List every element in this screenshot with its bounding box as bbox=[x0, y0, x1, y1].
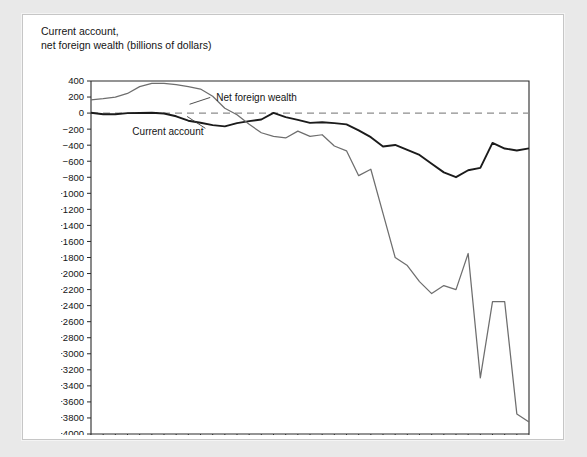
y-tick-label: −1600 bbox=[61, 236, 84, 247]
y-tick-label: −600 bbox=[63, 156, 84, 167]
chart-title-line2: net foreign wealth (billions of dollars) bbox=[41, 39, 211, 51]
y-tick-label: −2800 bbox=[61, 332, 84, 343]
y-tick-label: −400 bbox=[63, 140, 84, 151]
y-tick-label: −800 bbox=[63, 172, 84, 183]
y-tick-label: −1200 bbox=[61, 204, 84, 215]
y-tick-label: −1000 bbox=[61, 188, 84, 199]
net-foreign-wealth-leader bbox=[190, 97, 211, 104]
series-line-current-account bbox=[91, 113, 529, 178]
y-tick-label: −3000 bbox=[61, 348, 84, 359]
net-foreign-wealth-annotation: Net foreign wealth bbox=[216, 92, 297, 103]
figure-panel: Current account, net foreign wealth (bil… bbox=[22, 14, 564, 440]
y-tick-label: −2400 bbox=[61, 300, 84, 311]
y-tick-label: 0 bbox=[79, 107, 84, 118]
y-tick-label: −3600 bbox=[61, 396, 84, 407]
line-chart: 4002000−200−400−600−800−1000−1200−1400−1… bbox=[61, 67, 539, 435]
y-tick-label: 400 bbox=[68, 75, 84, 86]
y-tick-label: −4000 bbox=[61, 428, 84, 435]
y-tick-label: −3200 bbox=[61, 364, 84, 375]
y-tick-label: −2000 bbox=[61, 268, 84, 279]
y-tick-label: −1800 bbox=[61, 252, 84, 263]
chart-title: Current account, net foreign wealth (bil… bbox=[41, 25, 211, 52]
y-tick-label: −200 bbox=[63, 124, 84, 135]
y-tick-label: −2200 bbox=[61, 284, 84, 295]
y-tick-label: −1400 bbox=[61, 220, 84, 231]
plot-area: 4002000−200−400−600−800−1000−1200−1400−1… bbox=[61, 67, 539, 435]
y-tick-label: −2600 bbox=[61, 316, 84, 327]
y-tick-label: −3400 bbox=[61, 380, 84, 391]
y-tick-label: 200 bbox=[68, 91, 84, 102]
y-tick-label: −3800 bbox=[61, 412, 84, 423]
chart-title-line1: Current account, bbox=[41, 25, 119, 37]
current-account-annotation: Current account bbox=[132, 126, 203, 137]
